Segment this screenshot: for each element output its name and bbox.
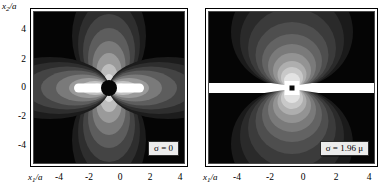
x-tick-label: -4 xyxy=(49,172,69,182)
saturated-band-right xyxy=(297,83,375,93)
y-tick-label: 0 xyxy=(0,82,26,92)
contour-panel-sigma-196mu: σ = 1.96 μ xyxy=(205,8,378,167)
x-tick-label: 4 xyxy=(170,172,190,182)
annotation-text: σ = 0 xyxy=(154,143,173,153)
field-core-dot xyxy=(289,85,294,90)
x-tick-label: 0 xyxy=(110,172,130,182)
y-tick-label: -4 xyxy=(0,140,26,150)
x-tick-label: -2 xyxy=(79,172,99,182)
x-axis-label-denominator: /a xyxy=(36,172,43,182)
saturated-region-left xyxy=(74,83,102,92)
saturated-band-left xyxy=(208,83,286,93)
x-tick-label: 2 xyxy=(326,172,346,182)
annotation-sigma-zero: σ = 0 xyxy=(148,141,179,156)
y-tick-label: 4 xyxy=(0,24,26,34)
x-tick-label: 2 xyxy=(140,172,160,182)
y-tick-label: 2 xyxy=(0,54,26,64)
x-tick-label: 0 xyxy=(293,172,313,182)
x-axis-label-right: x1/a xyxy=(203,172,218,184)
y-axis-label: x2/a xyxy=(2,1,17,13)
x-tick-label: -2 xyxy=(260,172,280,182)
field-core-dark xyxy=(101,80,117,96)
y-axis-label-denominator: /a xyxy=(10,1,17,11)
x-tick-label: -4 xyxy=(227,172,247,182)
figure-container: x2/a 4 2 0 -2 -4 xyxy=(0,0,387,191)
annotation-sigma-196mu: σ = 1.96 μ xyxy=(320,141,369,156)
y-tick-label: -2 xyxy=(0,111,26,121)
x-axis-label-left: x1/a xyxy=(28,172,43,184)
contour-panel-sigma-zero: σ = 0 xyxy=(30,8,188,167)
annotation-text: σ = 1.96 μ xyxy=(326,143,363,153)
saturated-region-right xyxy=(116,83,144,92)
x-tick-label: 4 xyxy=(359,172,379,182)
x-axis-label-denominator: /a xyxy=(211,172,218,182)
